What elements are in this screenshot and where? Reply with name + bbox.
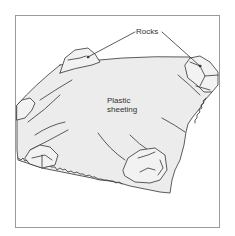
plastic-sheeting-label-line1: Plastic (107, 96, 137, 105)
plastic-sheet (17, 57, 212, 193)
plastic-sheeting-label: Plastic sheeting (107, 96, 137, 114)
plastic-sheet-diagram (0, 0, 235, 236)
plastic-sheeting-label-line2: sheeting (107, 105, 137, 114)
leader-line-left (88, 32, 135, 57)
rocks-label: Rocks (136, 27, 158, 36)
